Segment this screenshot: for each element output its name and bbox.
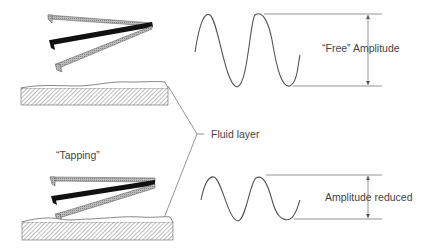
fluid-layer-bottom xyxy=(22,217,173,222)
reduced-amplitude-wave xyxy=(201,177,300,221)
free-amplitude-label: “Free” Amplitude xyxy=(322,42,400,54)
fluid-layer-pointer xyxy=(164,86,204,218)
free-amplitude-wave xyxy=(195,14,300,87)
cantilever-middle-icon xyxy=(49,22,153,50)
tapping-cantilever-group xyxy=(50,177,155,222)
tapping-mode-diagram xyxy=(0,0,445,252)
fluid-layer-label: Fluid layer xyxy=(211,128,259,140)
tapping-substrate xyxy=(22,217,173,240)
cantilever-upper-icon xyxy=(48,15,152,26)
fluid-layer-top xyxy=(21,82,168,88)
tapping-label: “Tapping” xyxy=(56,149,100,161)
free-cantilever-group xyxy=(48,15,153,72)
amplitude-reduced-label: Amplitude reduced xyxy=(325,191,413,203)
free-substrate xyxy=(21,82,168,105)
